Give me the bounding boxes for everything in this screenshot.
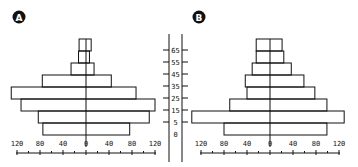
x-tick-label: 120: [195, 140, 208, 148]
x-tick-label: 40: [243, 140, 251, 148]
svg-text:B: B: [196, 13, 203, 23]
x-tick-label: 120: [11, 140, 24, 148]
svg-text:A: A: [16, 13, 23, 23]
pyramid-bar: [71, 63, 94, 75]
pyramid-bar: [256, 39, 282, 51]
pyramid-bar: [11, 87, 136, 99]
age-label: 15: [171, 107, 179, 115]
age-label: 0: [173, 131, 177, 139]
x-tick-label: 80: [36, 140, 44, 148]
x-axis-a: 120804004080120: [11, 140, 162, 155]
pyramid-bar: [38, 111, 149, 123]
pyramid-b: [192, 39, 344, 147]
pyramid-a: [11, 39, 155, 147]
age-axis: 65554535251550: [163, 34, 188, 162]
age-label: 55: [171, 59, 179, 67]
age-label: 65: [171, 47, 179, 55]
pyramid-bar: [79, 51, 90, 63]
pyramid-bar: [21, 99, 155, 111]
population-pyramids-figure: A B 65554535251550 120804004080120 12080…: [0, 0, 358, 167]
pyramid-bar: [42, 75, 111, 87]
pyramid-bar: [245, 75, 304, 87]
pyramid-bar: [252, 63, 291, 75]
panel-a-badge: A: [13, 11, 26, 24]
age-label: 45: [171, 71, 179, 79]
x-axis-b: 120804004080120: [195, 140, 346, 155]
x-tick-label: 80: [220, 140, 228, 148]
x-tick-label: 80: [128, 140, 136, 148]
x-tick-label: 0: [268, 140, 272, 148]
x-tick-label: 120: [333, 140, 346, 148]
pyramid-bar: [79, 39, 91, 51]
age-label: 25: [171, 95, 179, 103]
pyramid-bar: [224, 123, 327, 135]
pyramid-bar: [247, 87, 315, 99]
x-tick-label: 40: [59, 140, 67, 148]
x-tick-label: 40: [289, 140, 297, 148]
age-label: 35: [171, 83, 179, 91]
pyramid-bar: [230, 99, 327, 111]
x-tick-label: 0: [84, 140, 88, 148]
age-label: 5: [173, 119, 177, 127]
pyramid-bar: [192, 111, 344, 123]
x-tick-label: 40: [105, 140, 113, 148]
panel-b-badge: B: [193, 11, 206, 24]
x-tick-label: 80: [312, 140, 320, 148]
x-tick-label: 120: [149, 140, 162, 148]
